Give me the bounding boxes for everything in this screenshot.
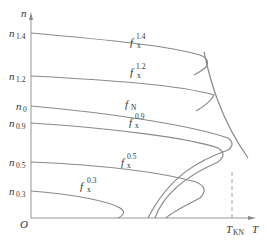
svg-text:N: N (131, 103, 137, 112)
label-f-x-1.4: f x 1.4 (130, 32, 146, 50)
curve-f-x-1.4 (31, 33, 208, 75)
svg-text:0.5: 0.5 (16, 161, 26, 170)
svg-text:x: x (137, 71, 141, 80)
svg-text:1.2: 1.2 (136, 62, 146, 71)
label-f-x-0.5: f x 0.5 (121, 152, 137, 170)
svg-text:n: n (9, 156, 15, 168)
svg-text:f: f (130, 36, 135, 48)
svg-text:x: x (135, 121, 139, 130)
svg-text:n: n (9, 185, 15, 197)
svg-text:0.5: 0.5 (127, 152, 137, 161)
svg-text:f: f (121, 156, 126, 168)
svg-text:n: n (9, 27, 15, 39)
svg-text:1.4: 1.4 (136, 32, 146, 41)
svg-text:0.9: 0.9 (16, 122, 26, 131)
label-f-x-1.2: f x 1.2 (130, 62, 146, 80)
y-tick-n1.2: n 1.2 (9, 70, 26, 84)
svg-text:n: n (9, 117, 15, 129)
svg-text:0.3: 0.3 (87, 176, 97, 185)
svg-text:0: 0 (23, 105, 27, 114)
label-f-x-0.9: f x 0.9 (129, 112, 145, 130)
curve-f-x-0.5 (31, 162, 204, 218)
curve-f-x-0.9 (31, 123, 223, 218)
curve-f-x-1.2 (31, 76, 214, 111)
curve-f-x-0.3 (31, 191, 124, 218)
x-axis-label: T (252, 223, 259, 235)
x-axis-arrow-icon (248, 216, 256, 220)
y-tick-n1.4: n 1.4 (9, 27, 26, 41)
svg-text:f: f (130, 66, 135, 78)
svg-text:n: n (16, 100, 22, 112)
y-axis-label: n (21, 7, 27, 19)
x-tick-tkn: T KN (226, 223, 244, 237)
y-tick-n0.9: n 0.9 (9, 117, 26, 131)
svg-text:1.2: 1.2 (16, 75, 26, 84)
svg-text:x: x (127, 161, 131, 170)
svg-text:1.4: 1.4 (16, 32, 26, 41)
svg-text:f: f (125, 98, 130, 110)
svg-text:0.3: 0.3 (16, 190, 26, 199)
y-tick-n0.5: n 0.5 (9, 156, 26, 170)
svg-text:KN: KN (233, 228, 244, 237)
label-f-x-0.3: f x 0.3 (80, 176, 97, 194)
label-f-N: f N (125, 98, 137, 112)
y-tick-n0.3: n 0.3 (9, 185, 26, 199)
mechanical-characteristics-diagram: n T O n 1.4 n 1.2 n 0 n 0.9 n 0.5 n 0.3 … (0, 0, 269, 242)
svg-text:f: f (80, 180, 85, 192)
svg-text:x: x (87, 185, 91, 194)
svg-text:x: x (137, 41, 141, 50)
svg-text:T: T (226, 223, 233, 235)
y-axis-arrow-icon (29, 12, 33, 20)
svg-text:n: n (9, 70, 15, 82)
y-tick-n0: n 0 (16, 100, 27, 114)
critical-envelope-curve (204, 52, 248, 158)
origin-label: O (20, 218, 28, 230)
svg-text:0.9: 0.9 (135, 112, 145, 121)
